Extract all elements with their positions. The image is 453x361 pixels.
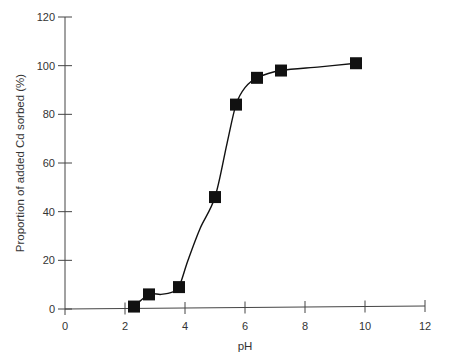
y-tick-label: 0 bbox=[49, 303, 55, 315]
y-tick-label: 100 bbox=[37, 60, 55, 72]
x-tick-label: 0 bbox=[62, 320, 68, 332]
data-markers bbox=[128, 57, 362, 312]
data-point-marker bbox=[173, 281, 185, 293]
chart: 020406080100120024681012 pH Proportion o… bbox=[0, 0, 453, 361]
y-tick-label: 80 bbox=[43, 108, 55, 120]
data-point-marker bbox=[230, 99, 242, 111]
y-tick-label: 20 bbox=[43, 254, 55, 266]
x-tick-label: 8 bbox=[302, 320, 308, 332]
y-axis-title: Proportion of added Cd sorbed (%) bbox=[14, 74, 26, 253]
fitted-curve bbox=[134, 63, 356, 306]
y-tick-label: 40 bbox=[43, 206, 55, 218]
data-point-marker bbox=[251, 72, 263, 84]
data-point-marker bbox=[209, 191, 221, 203]
axes: 020406080100120024681012 bbox=[37, 11, 431, 332]
x-tick-label: 12 bbox=[419, 320, 431, 332]
x-tick-label: 6 bbox=[242, 320, 248, 332]
y-tick-label: 60 bbox=[43, 157, 55, 169]
x-axis-title: pH bbox=[238, 340, 253, 352]
data-point-marker bbox=[128, 301, 140, 313]
x-tick-label: 4 bbox=[182, 320, 188, 332]
data-point-marker bbox=[275, 65, 287, 77]
y-tick-label: 120 bbox=[37, 11, 55, 23]
x-tick-label: 10 bbox=[359, 320, 371, 332]
data-point-marker bbox=[143, 288, 155, 300]
x-tick-label: 2 bbox=[122, 320, 128, 332]
data-point-marker bbox=[350, 57, 362, 69]
curve-line bbox=[134, 63, 356, 306]
